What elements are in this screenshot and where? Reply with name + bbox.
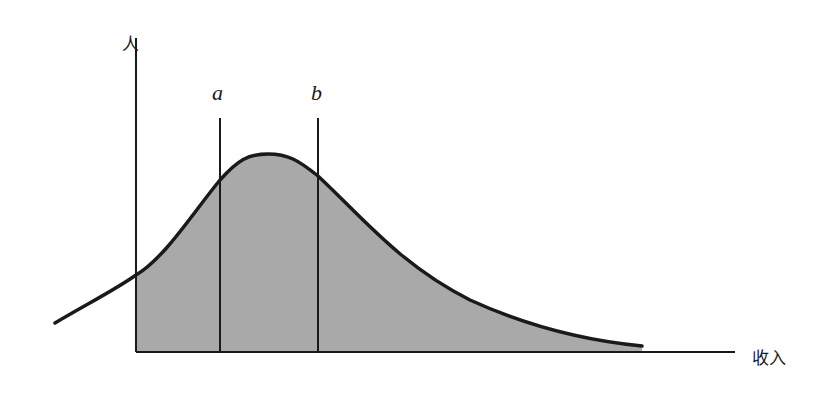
- x-axis-label: 收入: [752, 348, 786, 368]
- income-distribution-diagram: 人 收入 a b: [0, 0, 832, 400]
- marker-label-b: b: [311, 80, 322, 105]
- distribution-fill-area: [136, 154, 642, 352]
- marker-label-a: a: [212, 80, 223, 105]
- y-axis-label: 人: [122, 34, 139, 54]
